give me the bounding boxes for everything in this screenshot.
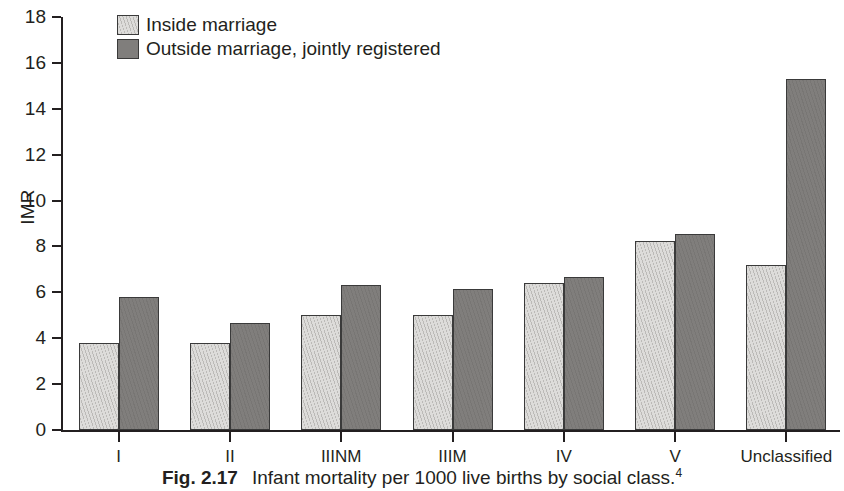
plot-area: 024681012141618 IIIIIINMIIIMIVVUnclassif… xyxy=(61,17,840,432)
bar-i-inside xyxy=(79,343,119,430)
y-axis-tick-label: 8 xyxy=(6,236,46,255)
bar-unclassified-outside xyxy=(786,79,826,430)
legend-label-outside-marriage: Outside marriage, jointly registered xyxy=(146,39,441,59)
x-axis-tick xyxy=(563,432,565,442)
legend-swatch-outside-marriage xyxy=(117,39,139,59)
y-axis-tick-label: 12 xyxy=(6,145,46,164)
figure-number: Fig. 2.17 xyxy=(162,467,238,488)
y-axis-tick-label: 10 xyxy=(6,191,46,210)
y-axis-tick xyxy=(52,383,61,385)
legend-item-inside-marriage: Inside marriage xyxy=(117,13,441,37)
bar-i-outside xyxy=(119,297,159,430)
legend-label-inside-marriage: Inside marriage xyxy=(146,15,277,35)
bar-iiinm-inside xyxy=(301,315,341,430)
x-axis-tick xyxy=(118,432,120,442)
y-axis-tick-label: 2 xyxy=(6,374,46,393)
y-axis-tick-label: 14 xyxy=(6,99,46,118)
x-axis-tick xyxy=(674,432,676,442)
y-axis-line xyxy=(61,17,63,432)
x-axis-line xyxy=(61,430,840,432)
chart-legend: Inside marriage Outside marriage, jointl… xyxy=(117,13,441,61)
y-axis-tick xyxy=(52,16,61,18)
y-axis-tick-label: 16 xyxy=(6,53,46,72)
bar-ii-outside xyxy=(230,323,270,430)
y-axis-tick-label: 4 xyxy=(6,328,46,347)
bar-iiim-outside xyxy=(453,289,493,430)
y-axis-tick xyxy=(52,291,61,293)
legend-item-outside-marriage: Outside marriage, jointly registered xyxy=(117,37,441,61)
y-axis-tick xyxy=(52,154,61,156)
x-axis-tick xyxy=(229,432,231,442)
y-axis-tick-label: 6 xyxy=(6,282,46,301)
y-axis-tick xyxy=(52,108,61,110)
figure-container: IMR 024681012141618 IIIIIINMIIIMIVVUncla… xyxy=(0,0,844,491)
y-axis-tick xyxy=(52,62,61,64)
x-axis-tick xyxy=(340,432,342,442)
bar-iiim-inside xyxy=(413,315,453,430)
legend-swatch-inside-marriage xyxy=(117,15,139,35)
figure-caption: Fig. 2.17Infant mortality per 1000 live … xyxy=(0,462,844,489)
x-axis-tick xyxy=(452,432,454,442)
y-axis-tick xyxy=(52,337,61,339)
bar-v-inside xyxy=(635,241,675,430)
bar-v-outside xyxy=(675,234,715,430)
y-axis-tick xyxy=(52,429,61,431)
bar-iv-outside xyxy=(564,277,604,430)
figure-caption-text: Infant mortality per 1000 live births by… xyxy=(252,467,675,488)
y-axis-tick xyxy=(52,245,61,247)
y-axis-tick-label: 18 xyxy=(6,7,46,26)
bar-iiinm-outside xyxy=(341,285,381,430)
x-axis-tick xyxy=(785,432,787,442)
bar-unclassified-inside xyxy=(746,265,786,430)
bar-ii-inside xyxy=(190,343,230,430)
y-axis-tick xyxy=(52,200,61,202)
bar-iv-inside xyxy=(524,283,564,430)
y-axis-tick-label: 0 xyxy=(6,420,46,439)
figure-caption-reference: 4 xyxy=(675,466,682,480)
